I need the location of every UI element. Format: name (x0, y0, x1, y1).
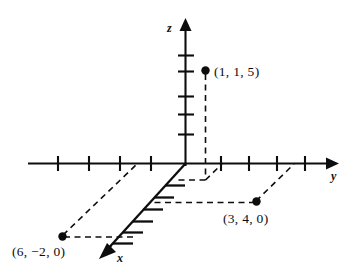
dashed-to-y-axis-point-3-4-0 (256, 164, 294, 201)
point-marker-3-4-0 (252, 197, 260, 205)
x-axis-label: x (116, 251, 123, 265)
z-axis-group (178, 31, 194, 166)
dashed-to-y-axis-point-6-neg2-0 (63, 164, 137, 235)
z-axis-label: z (166, 21, 172, 35)
x-axis-group (105, 164, 186, 253)
point-label-6-neg2-0: (6, −2, 0) (12, 244, 65, 259)
y-axis-label: y (329, 169, 337, 183)
dashed-foot-to-y-axis-point-1-1-5 (206, 164, 223, 180)
coordinate-figure: y z x (1, 1, 5) (0, 0, 347, 272)
point-label-1-1-5: (1, 1, 5) (214, 64, 259, 79)
point-marker-6-neg2-0 (58, 232, 66, 240)
x-axis-arrowhead-b (99, 243, 116, 259)
y-axis-group (28, 156, 327, 171)
axes-svg: y z x (1, 1, 5) (0, 0, 347, 272)
y-axis-arrowhead (326, 158, 339, 170)
point-label-3-4-0: (3, 4, 0) (223, 211, 268, 226)
z-axis-arrowhead (180, 18, 192, 31)
x-axis-line (105, 164, 186, 253)
point-marker-1-1-5 (201, 66, 209, 74)
